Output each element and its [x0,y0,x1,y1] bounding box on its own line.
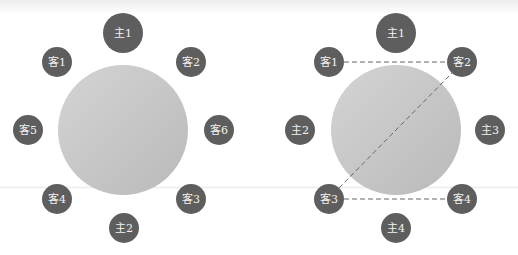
seat: 主2 [109,213,139,243]
seat-label: 客6 [210,123,228,137]
left-seating: 主1客1客2客5客6客4客3主2 [13,13,234,243]
seat-label: 客4 [453,192,471,206]
seat: 客2 [447,47,477,77]
seat-label: 客3 [182,192,200,206]
seat-label: 主2 [115,222,133,235]
seat-label: 客3 [320,192,338,206]
seat: 客1 [314,47,344,77]
seat-label: 客5 [19,123,37,137]
seat-label: 客2 [182,55,200,69]
seat: 主4 [381,213,411,243]
seat-label: 客1 [48,55,66,69]
seat: 客6 [204,115,234,145]
seat-label: 客1 [320,55,338,69]
seat: 主1 [376,13,416,53]
seat-label: 主3 [481,124,499,137]
seat-label: 客2 [453,55,471,69]
seat: 主3 [475,115,505,145]
seat-label: 主2 [291,124,309,137]
seat: 客5 [13,115,43,145]
round-table [58,65,188,195]
seat: 主1 [103,13,143,53]
seat: 客4 [447,184,477,214]
seat-label: 客4 [48,192,66,206]
seat: 客3 [314,184,344,214]
seat-label: 主4 [387,222,405,235]
seating-diagrams: 主1客1客2客5客6客4客3主2主1客1客2主2主3客3客4主4 [0,0,518,255]
seat: 主2 [285,115,315,145]
seat: 客3 [176,184,206,214]
seat: 客4 [42,184,72,214]
seat-label: 主1 [114,27,132,40]
seat: 客2 [176,47,206,77]
seat: 客1 [42,47,72,77]
right-seating: 主1客1客2主2主3客3客4主4 [285,13,505,243]
seat-label: 主1 [387,27,405,40]
